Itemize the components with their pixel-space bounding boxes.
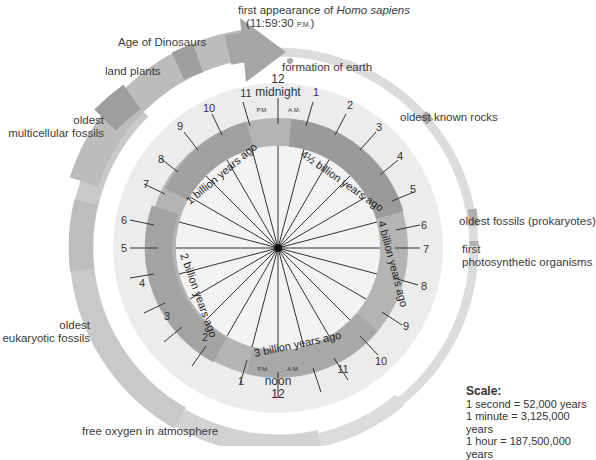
svg-text:2: 2 (347, 99, 353, 111)
svg-text:7: 7 (143, 178, 149, 190)
mark-eukaryotic (81, 202, 86, 270)
svg-text:7: 7 (423, 243, 429, 255)
svg-text:2: 2 (202, 331, 208, 343)
svg-text:3: 3 (376, 121, 382, 133)
svg-text:11: 11 (240, 87, 251, 99)
svg-text:10: 10 (375, 355, 387, 367)
outer-ring-bottom-right (320, 400, 400, 440)
center-hub (274, 244, 282, 252)
svg-text:10: 10 (203, 102, 215, 114)
oldest-fossils-label: oldest fossils (prokaryotes) (459, 215, 596, 228)
svg-text:8: 8 (421, 280, 427, 292)
svg-text:5: 5 (410, 183, 416, 195)
svg-text:3: 3 (164, 310, 170, 322)
svg-text:P.M.: P.M. (256, 107, 268, 113)
oldest-known-rocks-label: oldest known rocks (400, 111, 498, 124)
svg-text:12: 12 (271, 72, 285, 86)
svg-text:11: 11 (337, 363, 348, 375)
photosynthetic-label: firstphotosynthetic organisms (462, 243, 592, 269)
svg-text:5: 5 (121, 242, 127, 254)
svg-text:6: 6 (421, 219, 427, 231)
svg-text:1: 1 (313, 86, 319, 98)
svg-text:6: 6 (121, 214, 127, 226)
arrow-segment-dark (105, 97, 132, 120)
land-plants-label: land plants (105, 65, 161, 78)
eukaryotic-label: oldesteukaryotic fossils (2, 319, 90, 345)
arrow-segment-dark2 (178, 58, 198, 66)
homo-sapiens-time: (11:59:30 P.M.) (246, 17, 314, 31)
svg-text:9: 9 (403, 320, 409, 332)
multicellular-label: oldestmulticellular fossils (8, 114, 104, 140)
svg-text:midnight: midnight (255, 85, 301, 99)
svg-text:4: 4 (139, 277, 145, 289)
scale-legend: Scale: 1 second = 52,000 years 1 minute … (466, 385, 596, 460)
svg-text:P.M.: P.M. (257, 366, 269, 372)
svg-text:9: 9 (177, 120, 183, 132)
svg-text:noon: noon (265, 374, 292, 388)
svg-text:12: 12 (271, 387, 285, 401)
scale-line: 1 second = 52,000 years (466, 398, 596, 411)
svg-text:A.M.: A.M. (287, 366, 300, 372)
svg-text:A.M.: A.M. (288, 107, 301, 113)
svg-text:1: 1 (238, 375, 244, 387)
svg-text:8: 8 (158, 153, 164, 165)
scale-line: 1 hour = 187,500,000 years (466, 435, 596, 460)
homo-sapiens-label: first appearance of Homo sapiens (238, 4, 410, 17)
age-of-dinosaurs-label: Age of Dinosaurs (118, 36, 206, 49)
svg-text:4: 4 (397, 150, 403, 162)
scale-line: 1 minute = 3,125,000 years (466, 410, 596, 435)
free-oxygen-label: free oxygen in atmosphere (82, 425, 218, 438)
formation-of-earth-label: formation of earth (282, 61, 372, 74)
scale-title: Scale: (466, 384, 501, 398)
